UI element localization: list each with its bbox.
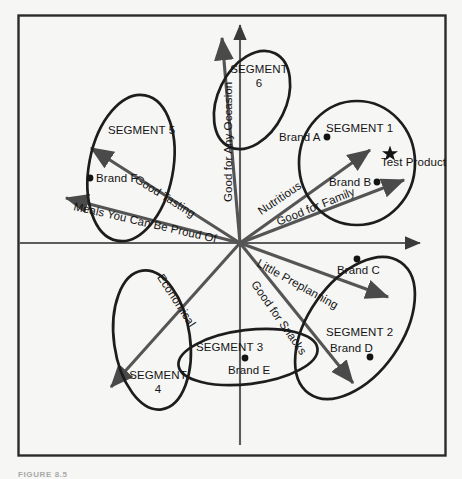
- brand-e-dot: [242, 355, 249, 362]
- brand-d-label: Brand D: [330, 342, 373, 354]
- brand-b-dot: [374, 179, 381, 186]
- vector-economical: [111, 243, 240, 387]
- segment-2-label: SEGMENT 2: [326, 326, 393, 338]
- segment-1-label: SEGMENT 1: [326, 122, 393, 134]
- brand-c-dot: [354, 256, 361, 263]
- segment-3-label: SEGMENT 3: [196, 341, 263, 353]
- segment-6-ellipse: [199, 38, 306, 161]
- test-product-label: Test Product: [381, 156, 446, 168]
- brand-c-label: Brand C: [337, 264, 380, 276]
- attribute-label-good-for-any-occasion: Good for Any Occasion: [222, 82, 234, 202]
- segment-4-label-line2: 4: [127, 383, 189, 395]
- brand-f-dot: [87, 175, 94, 182]
- brand-d-dot: [367, 354, 374, 361]
- brand-f-label: Brand F: [96, 172, 138, 184]
- segment-5-label: SEGMENT 5: [108, 124, 175, 136]
- brand-a-dot: [324, 134, 331, 141]
- brand-e-label: Brand E: [228, 364, 270, 376]
- figure-caption: FIGURE 8.5: [18, 470, 68, 479]
- segment-6-label-line2: 6: [228, 77, 290, 89]
- perceptual-map-figure: SEGMENT 1 Brand A Test Product Brand B B…: [0, 0, 462, 479]
- segment-6-label-line1: SEGMENT: [228, 63, 290, 75]
- brand-a-label: Brand A: [279, 131, 321, 143]
- segment-4-label-line1: SEGMENT: [127, 369, 189, 381]
